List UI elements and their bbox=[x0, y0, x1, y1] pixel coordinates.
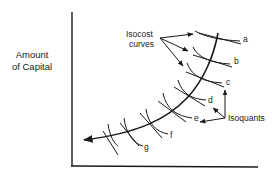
isoquant-d bbox=[178, 80, 206, 100]
diagram-canvas: Isocost curves Isoquants a b c d e f g bbox=[0, 0, 272, 181]
isoquants-label: Isoquants bbox=[228, 113, 265, 123]
curve-label-f: f bbox=[170, 130, 173, 140]
curve-label-c: c bbox=[226, 77, 231, 87]
x-axis bbox=[71, 166, 258, 167]
curve-label-g: g bbox=[144, 142, 149, 152]
curve-label-a: a bbox=[243, 34, 248, 44]
isocost-arrows bbox=[160, 34, 193, 66]
curve-label-d: d bbox=[208, 95, 213, 105]
curve-label-b: b bbox=[234, 56, 239, 66]
isoquant-f bbox=[146, 109, 168, 134]
isocost-label-line2: curves bbox=[129, 39, 154, 49]
curve-label-e: e bbox=[194, 113, 199, 123]
isoquant-curves bbox=[108, 31, 240, 146]
isocost-label-line1: Isocost bbox=[126, 29, 154, 39]
